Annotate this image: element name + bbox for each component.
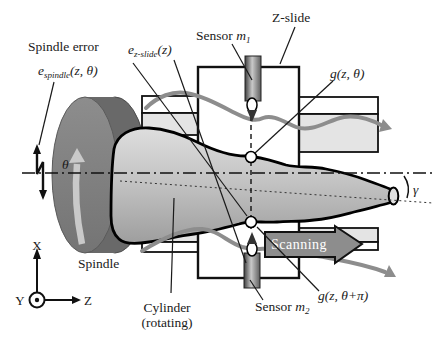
error-arrow-up-icon	[33, 144, 41, 154]
e-zslide-label: ez-slide(z)	[128, 42, 172, 59]
x-axis-label: X	[32, 238, 42, 253]
rail-top-right-white-band	[299, 97, 378, 114]
spindle-label: Spindle	[78, 256, 119, 271]
measurement-diagram: θ Scanning γ	[0, 0, 437, 345]
spindle-front-face	[52, 97, 118, 253]
g-theta-pi-label: g(z, θ+π)	[318, 288, 369, 303]
z-axis-arrowhead-icon	[72, 296, 81, 304]
z-slide-label: Z-slide	[272, 10, 310, 25]
cylinder-label-line1: Cylinder	[143, 300, 191, 315]
leader-z-slide	[280, 27, 295, 64]
error-arrow-down-icon	[39, 190, 47, 200]
z-axis-label: Z	[84, 293, 92, 308]
cylinder-label-line2: (rotating)	[142, 315, 193, 330]
theta-label: θ	[62, 157, 69, 172]
contact-point-top	[246, 152, 257, 163]
diagram-svg: θ Scanning γ	[0, 0, 437, 345]
spindle-error-label: Spindle error	[28, 39, 99, 54]
spindle-error-symbol	[33, 144, 47, 200]
gamma-label: γ	[413, 182, 419, 197]
g-theta-label: g(z, θ)	[330, 66, 365, 81]
leader-spindle-error	[39, 82, 54, 145]
error-zigzag	[37, 150, 43, 192]
gamma-angle-arc	[404, 176, 408, 198]
y-axis-dot-icon	[35, 298, 39, 302]
e-spindle-label: espindle(z, θ)	[38, 63, 98, 80]
contact-point-bottom	[246, 217, 257, 228]
sensor-m2-label: Sensor m2	[255, 299, 310, 316]
sensor-m2-tip-bead	[247, 242, 257, 256]
sensor-m1-tip-bead	[247, 98, 257, 112]
sensor-m1-body	[245, 56, 261, 101]
y-axis-label: Y	[15, 293, 25, 308]
cylinder-end-face	[389, 188, 399, 205]
sensor-m1-label: Sensor m1	[196, 28, 250, 45]
